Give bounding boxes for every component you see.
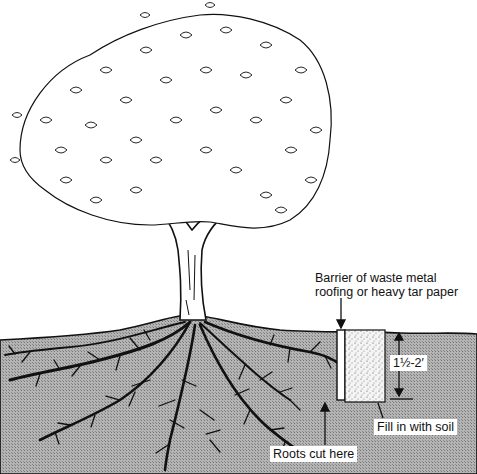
barrier-trench xyxy=(337,330,385,402)
tree-illustration xyxy=(0,0,477,474)
fill-label: Fill in with soil xyxy=(374,419,457,435)
barrier-sheet xyxy=(337,330,345,400)
roots-cut-label: Roots cut here xyxy=(270,446,357,462)
depth-label: 1½-2′ xyxy=(390,355,427,371)
barrier-label-line2: roofing or heavy tar paper xyxy=(315,285,458,299)
diagram-canvas: Barrier of waste metal roofing or heavy … xyxy=(0,0,477,474)
barrier-label-line1: Barrier of waste metal xyxy=(315,271,437,285)
soil-fill xyxy=(345,330,385,402)
tree-canopy xyxy=(10,3,331,229)
